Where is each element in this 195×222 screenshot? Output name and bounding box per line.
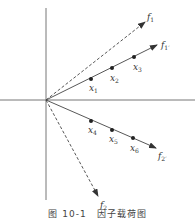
factor-loading-diagram: f1 f1′ f2′ f2 x1 x2 x3 x4 x5 x6 [0,0,195,222]
label-f1: f1 [146,12,154,23]
point-x5 [110,128,114,132]
label-x4: x4 [88,125,97,136]
point-x3 [132,55,136,59]
vector-f2-dashed [46,100,98,196]
label-x6: x6 [130,143,139,154]
label-f1-prime: f1′ [160,40,170,51]
point-x6 [131,136,135,140]
figure-caption: 图 10-1 因子载荷图 [0,207,195,220]
label-x1: x1 [89,83,98,94]
vector-f2-prime [46,100,156,148]
label-x2: x2 [110,73,119,84]
point-x1 [89,77,93,81]
label-f2-prime: f2′ [157,151,167,162]
point-x2 [110,66,114,70]
label-x5: x5 [109,134,118,145]
label-x3: x3 [133,62,142,73]
point-x4 [89,119,93,123]
